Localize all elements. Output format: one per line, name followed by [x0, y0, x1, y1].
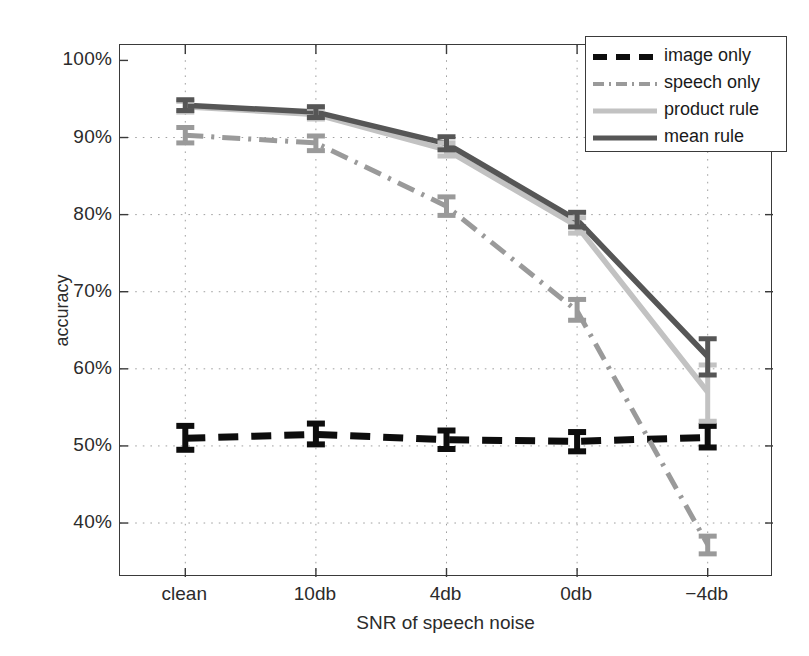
x-axis-title: SNR of speech noise: [119, 612, 772, 634]
chart-legend: image onlyspeech onlyproduct rulemean ru…: [585, 36, 787, 152]
error-bar: [438, 197, 456, 216]
legend-item-product-rule[interactable]: product rule: [592, 95, 780, 122]
y-axis-tick-label: 40%: [73, 511, 112, 533]
legend-item-speech-only[interactable]: speech only: [592, 68, 780, 95]
legend-item-mean-rule[interactable]: mean rule: [592, 122, 780, 149]
error-bar: [699, 426, 717, 448]
x-axis-tick-label: 10db: [294, 583, 336, 605]
chart-figure: 100%90%80%70%60%50%40% accuracy clean10d…: [0, 0, 809, 656]
y-axis-tick-label: 60%: [73, 357, 112, 379]
y-axis-tick-label: 90%: [73, 126, 112, 148]
error-bar: [568, 299, 586, 320]
legend-item-label: speech only: [664, 73, 760, 91]
error-bar: [699, 339, 717, 375]
legend-item-label: image only: [664, 46, 751, 64]
x-axis-tick-label: 4db: [430, 583, 462, 605]
y-axis-title: accuracy: [52, 231, 73, 391]
y-axis-tick-label: 70%: [73, 280, 112, 302]
y-axis-tick-label: 100%: [63, 48, 112, 70]
legend-line-sample-icon: [592, 76, 658, 88]
legend-item-label: product rule: [664, 100, 759, 118]
y-axis-tick-label: 80%: [73, 203, 112, 225]
legend-item-image-only[interactable]: image only: [592, 41, 780, 68]
error-bar: [699, 536, 717, 554]
x-axis-tick-label: clean: [162, 583, 207, 605]
y-axis-tick-label: 50%: [73, 434, 112, 456]
x-axis-tick-label: −4db: [685, 583, 728, 605]
legend-line-sample-icon: [592, 130, 658, 142]
legend-line-sample-icon: [592, 103, 658, 115]
x-axis-tick-label: 0db: [560, 583, 592, 605]
legend-item-label: mean rule: [664, 127, 744, 145]
legend-line-sample-icon: [592, 49, 658, 61]
